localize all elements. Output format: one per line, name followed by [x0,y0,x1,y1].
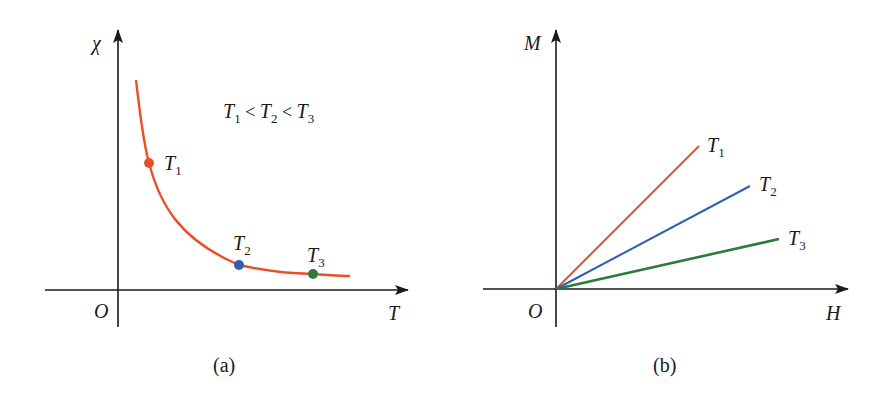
line-label-T3: T3 [788,227,806,253]
line-T1 [556,146,699,289]
x-axis-label-H: H [825,302,842,324]
temperature-relation: T1 < T2 < T3 [223,100,314,126]
x-axis-label-T: T [388,302,401,324]
y-axis-label-chi: χ [90,32,102,55]
line-T3 [556,239,779,289]
line-label-T2: T2 [759,173,777,199]
point-T3 [308,269,318,279]
line-label-T1: T1 [707,134,725,160]
origin-label-b: O [528,300,542,322]
origin-label-a: O [94,300,108,322]
panel-a: χ T O T1 T2 T3 T1 < T2 < T3 (a) [45,30,408,377]
figure: χ T O T1 T2 T3 T1 < T2 < T3 (a) M H O [0,0,877,401]
point-label-T3: T3 [307,244,325,270]
caption-a: (a) [213,354,235,377]
point-T1 [144,158,154,168]
caption-b: (b) [653,354,676,377]
point-label-T1: T1 [164,152,182,178]
point-label-T2: T2 [233,232,251,258]
point-T2 [234,260,244,270]
y-axis-label-M: M [523,32,542,54]
panel-b: M H O T1 T2 T3 (b) [483,30,848,377]
line-T2 [556,186,750,289]
